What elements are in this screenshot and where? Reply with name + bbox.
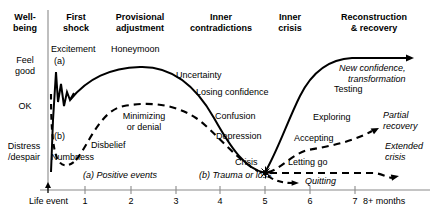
phase-header-first-shock-line2: shock — [52, 23, 100, 34]
stage-label-losing-confidence: Losing confidence — [196, 87, 269, 98]
x-tick-label-7: 7 — [345, 196, 365, 207]
x-origin-label: Life event — [29, 196, 68, 207]
phase-header-inner-contradictions: Inner contradictions — [180, 12, 262, 33]
curve-b-quitting-arrowhead-icon — [292, 180, 299, 186]
x-tick-label-6: 6 — [300, 196, 320, 207]
stage-label-minimizing: Minimizing — [110, 111, 178, 122]
y-tick-ok: OK — [4, 101, 46, 112]
y-tick-distress: Distress /despair — [0, 141, 48, 162]
stage-label-accepting: Accepting — [294, 133, 334, 144]
phase-header-inner-crisis-line1: Inner — [266, 12, 314, 23]
stage-label-uncertainty: Uncertainty — [176, 70, 222, 81]
stage-label-confusion: Confusion — [215, 111, 256, 122]
x-tick-label-4: 4 — [210, 196, 230, 207]
phase-header-reconstruction-recovery-line2: & recovery — [322, 23, 426, 34]
curve-b-extended-crisis-arrowhead-icon — [391, 174, 399, 180]
outcome-label-new-confidence: New confidence, transformation — [339, 63, 406, 84]
stage-label-crisis: Crisis — [235, 157, 258, 168]
stage-label-testing: Testing — [334, 84, 363, 95]
phase-header-provisional-adjustment-line2: adjustment — [104, 23, 176, 34]
phase-header-reconstruction-recovery-line1: Reconstruction — [322, 12, 426, 23]
y-tick-feel-good-line1: Feel — [4, 55, 46, 66]
stage-label-exploring: Exploring — [313, 112, 351, 123]
x-tick-label-5: 5 — [255, 196, 275, 207]
stage-label-minimizing-or-denial: Minimizing or denial — [110, 111, 178, 132]
stage-label-numbness: Numbness — [51, 152, 94, 163]
outcome-label-new-confidence-line2: transformation — [339, 74, 406, 85]
curve-a-arrowhead-icon — [406, 55, 414, 62]
stage-label-letting-go: Letting go — [288, 157, 328, 168]
outcome-label-partial-recovery-line1: Partial — [383, 110, 418, 121]
outcome-label-extended-crisis: Extended crisis — [385, 141, 423, 162]
y-tick-feel-good: Feel good — [4, 55, 46, 76]
outcome-label-partial-recovery-line2: recovery — [383, 121, 418, 132]
outcome-label-partial-recovery: Partial recovery — [383, 110, 418, 131]
legend-item-positive-events: (a) Positive events — [83, 170, 157, 181]
phase-header-inner-contradictions-line1: Inner — [180, 12, 262, 23]
curve-b-key: (b) — [54, 131, 65, 142]
curve-a-key: (a) — [54, 56, 65, 67]
legend-item-trauma-or-loss: (b) Trauma or loss — [199, 170, 272, 181]
x-tick-label-8-plus-months: 8+ months — [363, 196, 405, 207]
outcome-label-new-confidence-line1: New confidence, — [339, 63, 406, 74]
y-axis-title-line2: being — [4, 23, 46, 34]
y-tick-distress-line1: Distress — [0, 141, 48, 152]
phase-header-provisional-adjustment: Provisional adjustment — [104, 12, 176, 33]
y-tick-distress-line2: /despair — [0, 152, 48, 163]
x-tick-label-2: 2 — [121, 196, 141, 207]
stage-label-disbelief: Disbelief — [91, 140, 126, 151]
transition-curve-diagram: Well- being First shock Provisional adju… — [0, 0, 444, 224]
outcome-label-extended-crisis-line2: crisis — [385, 152, 423, 163]
stage-label-or-denial: or denial — [110, 122, 178, 133]
stage-label-depression: Depression — [216, 131, 262, 142]
phase-header-first-shock-line1: First — [52, 12, 100, 23]
phase-header-reconstruction-recovery: Reconstruction & recovery — [322, 12, 426, 33]
stage-label-honeymoon: Honeymoon — [111, 44, 160, 55]
x-tick-label-1: 1 — [75, 196, 95, 207]
y-axis-title-line1: Well- — [4, 12, 46, 23]
y-tick-feel-good-line2: good — [4, 66, 46, 77]
phase-header-provisional-adjustment-line1: Provisional — [104, 12, 176, 23]
phase-header-first-shock: First shock — [52, 12, 100, 33]
phase-header-inner-contradictions-line2: contradictions — [180, 23, 262, 34]
x-tick-label-3: 3 — [166, 196, 186, 207]
phase-header-inner-crisis: Inner crisis — [266, 12, 314, 33]
y-axis-title: Well- being — [4, 12, 46, 33]
phase-header-inner-crisis-line2: crisis — [266, 23, 314, 34]
outcome-label-quitting: Quitting — [305, 176, 336, 187]
outcome-label-extended-crisis-line1: Extended — [385, 141, 423, 152]
stage-label-excitement: Excitement — [51, 44, 96, 55]
